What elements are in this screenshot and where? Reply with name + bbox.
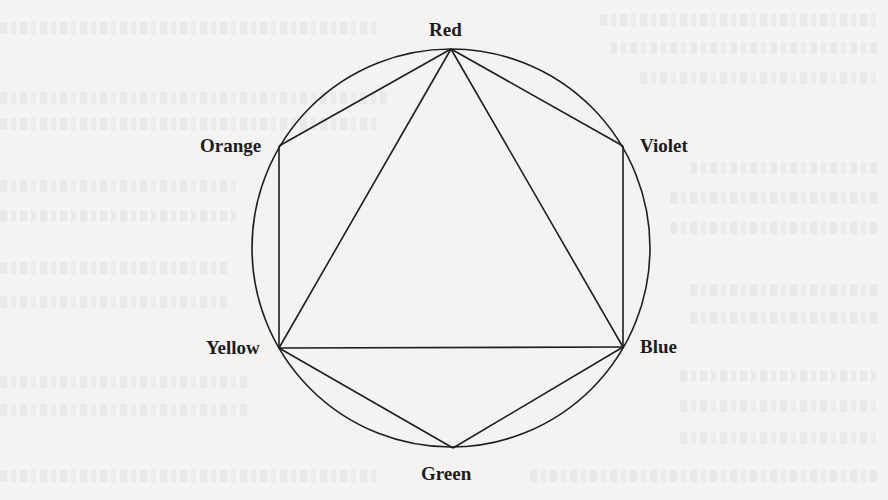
edge-green-yellow — [279, 348, 453, 448]
label-blue: Blue — [640, 337, 677, 356]
edge-yellow-red — [279, 49, 451, 348]
label-orange: Orange — [200, 136, 261, 155]
edge-blue-yellow — [279, 347, 623, 348]
color-circle — [252, 49, 650, 447]
label-green: Green — [421, 464, 471, 483]
label-violet: Violet — [640, 136, 688, 155]
color-circle-diagram — [0, 0, 888, 500]
primary-triangle — [279, 49, 623, 348]
edge-red-blue — [451, 49, 623, 347]
edge-orange-red — [279, 49, 451, 146]
edge-red-violet — [451, 49, 623, 146]
label-red: Red — [429, 20, 462, 39]
label-yellow: Yellow — [206, 338, 260, 357]
hexagon-edges — [279, 49, 623, 448]
edge-blue-green — [453, 347, 623, 448]
